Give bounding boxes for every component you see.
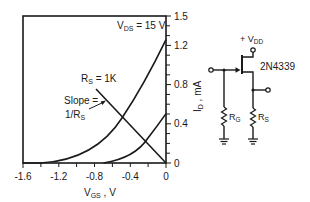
x-tick-label: -0.4 (122, 171, 140, 182)
x-tick-label: -1.2 (50, 171, 68, 182)
vdd-label: + VDD (240, 34, 263, 45)
x-tick-labels: -1.6 -1.2 -0.8 -0.4 0 (14, 171, 169, 182)
y-tick-labels: 0 0.4 0.8 1.2 1.5 (174, 11, 188, 169)
source-wire (242, 72, 253, 108)
output-terminal (266, 88, 270, 92)
y-tick-label: 1.5 (174, 11, 188, 22)
load-line-rs-label: RS = 1K (81, 73, 117, 85)
y-tick-label: 0.8 (174, 79, 188, 90)
x-axis-title: VGS , V (84, 187, 116, 199)
slope-label-formula: 1/RS (65, 109, 86, 121)
drain-wire (242, 52, 253, 57)
part-number-label: 2N4339 (260, 61, 295, 72)
input-terminal (209, 68, 213, 72)
y-tick-label: 0.4 (174, 118, 188, 129)
ground-icon (248, 139, 258, 144)
vds-condition-label: VDS = 15 V (117, 20, 166, 32)
plot-area: -1.6 -1.2 -0.8 -0.4 0 0 0.4 0.8 1.2 1.5 … (14, 11, 204, 200)
rs-label: RS (258, 112, 270, 123)
ground-icon (219, 139, 229, 144)
figure: -1.6 -1.2 -0.8 -0.4 0 0 0.4 0.8 1.2 1.5 … (0, 0, 310, 202)
y-axis-title: ID , mA (192, 80, 204, 112)
slope-label: Slope = (64, 95, 98, 106)
rg-resistor-icon (222, 107, 227, 126)
arrowhead-icon (101, 101, 107, 106)
y-tick-label: 1.2 (174, 40, 188, 51)
gate-arrow-icon (236, 67, 241, 72)
x-tick-label: -0.8 (86, 171, 104, 182)
x-tick-label: -1.6 (14, 171, 32, 182)
vdd-terminal (251, 48, 255, 52)
y-tick-label: 0 (174, 158, 180, 169)
x-tick-label: 0 (163, 171, 169, 182)
rs-resistor-icon (251, 108, 256, 127)
load-line (96, 89, 166, 163)
transfer-curve-low (104, 114, 167, 163)
circuit-schematic: + VDD 2N4339 RG RS (209, 34, 296, 144)
rg-label: RG (229, 112, 241, 123)
